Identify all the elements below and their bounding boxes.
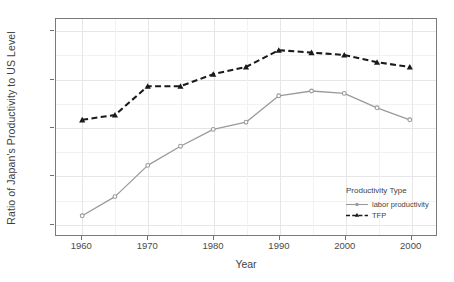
y-axis-tick-mark: [50, 224, 54, 225]
x-axis-tick-label: 1990: [249, 240, 309, 251]
x-axis-tick-label: 1970: [117, 240, 177, 251]
data-point: [146, 164, 150, 168]
legend-item-tfp[interactable]: TFP: [346, 211, 429, 221]
y-axis-tick-mark: [50, 175, 54, 176]
y-axis-tick-mark: [50, 79, 54, 80]
x-axis-tick-mark: [213, 236, 214, 240]
data-point: [408, 118, 412, 122]
x-axis-tick-label: 1960: [51, 240, 111, 251]
data-point: [113, 195, 117, 199]
x-axis-tick-mark: [411, 236, 412, 240]
x-axis-tick-mark: [279, 236, 280, 240]
x-axis-tick-mark: [81, 236, 82, 240]
data-point: [80, 214, 84, 218]
x-axis-title: Year: [55, 258, 437, 270]
legend: Productivity Type labor productivity TFP: [346, 186, 429, 221]
chart-figure: Ratio of Japan's Productivity to US Leve…: [0, 0, 454, 282]
data-point: [211, 128, 215, 132]
legend-key-labor-productivity: [346, 200, 368, 209]
series-tfp: [79, 47, 413, 122]
y-axis-title: Ratio of Japan's Productivity to US Leve…: [2, 10, 20, 246]
data-point: [277, 94, 281, 98]
data-point: [342, 92, 346, 96]
data-point: [310, 89, 314, 93]
x-axis-tick-label: 2000: [315, 240, 375, 251]
x-axis-tick-mark: [147, 236, 148, 240]
data-point: [375, 106, 379, 110]
legend-label-labor-productivity: labor productivity: [372, 200, 429, 210]
legend-title: Productivity Type: [346, 186, 429, 197]
data-point: [244, 120, 248, 124]
y-axis-tick-mark: [50, 127, 54, 128]
series-line: [82, 50, 410, 120]
legend-label-tfp: TFP: [372, 211, 386, 221]
legend-item-labor-productivity[interactable]: labor productivity: [346, 200, 429, 210]
data-point: [179, 144, 183, 148]
x-axis-tick-label: 2000: [381, 240, 441, 251]
data-point: [407, 64, 413, 70]
x-axis-tick-mark: [345, 236, 346, 240]
y-axis-tick-mark: [50, 30, 54, 31]
legend-key-tfp: [346, 211, 368, 220]
x-axis-tick-label: 1980: [183, 240, 243, 251]
